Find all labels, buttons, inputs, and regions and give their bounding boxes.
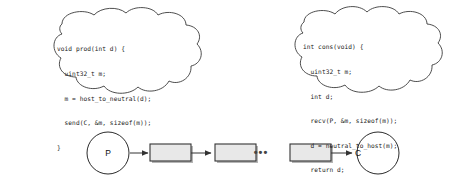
- code-line: m = host_to_neutral(d);: [57, 95, 151, 103]
- code-line: void prod(int d) {: [57, 45, 151, 53]
- pipeline-node-producer-label: P: [98, 148, 118, 158]
- code-line: send(C, &m, sizeof(m));: [57, 119, 151, 127]
- code-line: int d;: [303, 93, 397, 101]
- pipeline-buffer-1: [150, 144, 191, 161]
- consumer-code-text: int cons(void) { uint32_t m; int d; recv…: [303, 27, 397, 190]
- pipeline-ellipsis: •••: [250, 146, 272, 158]
- code-line: return d;: [303, 166, 397, 174]
- code-line: uint32_t m;: [303, 68, 397, 76]
- figure-root: void prod(int d) { uint32_t m; m = host_…: [0, 0, 458, 190]
- pipeline-node-consumer-label: C: [348, 148, 368, 158]
- code-line: uint32_t m;: [57, 70, 151, 78]
- code-line: int cons(void) {: [303, 43, 397, 51]
- code-line: recv(P, &m, sizeof(m));: [303, 117, 397, 125]
